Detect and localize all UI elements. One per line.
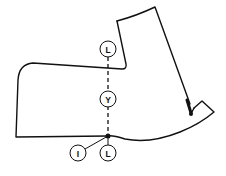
label-circle-bottom-left: I: [70, 145, 86, 161]
left-shape-outline: [16, 21, 126, 137]
upper-shape-outline: [108, 7, 214, 140]
marker-stroke: [187, 100, 191, 113]
label-circle-middle: Y: [100, 91, 116, 107]
label-middle: Y: [105, 95, 111, 105]
label-circle-top: L: [100, 41, 116, 57]
label-circle-bottom-right: L: [100, 145, 116, 161]
outline-drawing: L Y I L: [0, 0, 226, 176]
label-bottom-left: I: [77, 149, 79, 159]
label-top: L: [105, 45, 110, 55]
label-bottom-right: L: [105, 149, 110, 159]
diagram-canvas: L Y I L: [0, 0, 226, 176]
